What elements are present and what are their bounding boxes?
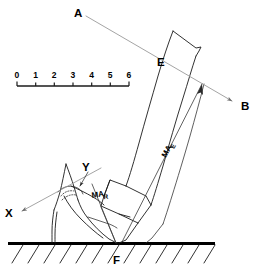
limb-outline-group [101, 31, 204, 243]
limb-terminal-wedge-outer [146, 224, 163, 243]
limb-proximal-cap [173, 31, 201, 56]
foot-toe-front-inner [55, 212, 57, 243]
scale-bar-group [17, 82, 129, 87]
foot-dorsal-spike-front [54, 164, 66, 210]
limb-distal-cross-c [138, 205, 151, 223]
limb-distal-cross-d [146, 196, 151, 205]
limb-distal-cross-a [126, 186, 146, 196]
ground-group [8, 244, 215, 264]
moment-arm-e-group [122, 84, 203, 242]
axis-xy-group [22, 168, 101, 211]
label-f: F [113, 254, 120, 266]
foot-malleolus-dotted-b [62, 195, 76, 200]
scale-tick-label-1: 1 [33, 70, 38, 80]
scale-tick-label-4: 4 [89, 70, 94, 80]
foot-midfoot-line [88, 217, 117, 228]
limb-distal-lower-face [101, 206, 130, 217]
label-x: X [5, 207, 13, 219]
label-y: Y [82, 161, 90, 173]
label-b: B [241, 100, 249, 112]
moment-arm-e-line [122, 84, 202, 242]
figure-root: A B E F X Y MA E MA R 0 1 2 3 4 5 6 [0, 0, 263, 271]
scale-tick-label-0: 0 [15, 70, 20, 80]
foot-outline-group [52, 164, 118, 243]
foot-toe-front [52, 210, 54, 243]
scale-tick-label-5: 5 [108, 70, 113, 80]
foot-plantar-inner [64, 196, 103, 238]
limb-anterior-border [126, 31, 173, 186]
biomechanics-diagram: A B E F X Y MA E MA R 0 1 2 3 4 5 6 [0, 0, 263, 271]
scale-tick-label-3: 3 [71, 70, 76, 80]
moment-arm-r-line-b [101, 207, 116, 243]
label-ma-e-group: MA E [160, 140, 177, 160]
moment-arm-e-arrowhead [197, 84, 203, 95]
label-group: A B E F X Y MA E MA R 0 1 2 3 4 5 6 [5, 7, 249, 266]
limb-terminal-wedge [119, 223, 138, 243]
label-a: A [74, 7, 82, 19]
axis-line-xy [22, 168, 101, 211]
label-ma-r-subscript: R [103, 193, 109, 201]
label-e: E [157, 56, 165, 68]
scale-tick-label-6: 6 [127, 70, 132, 80]
scale-tick-label-2: 2 [52, 70, 57, 80]
